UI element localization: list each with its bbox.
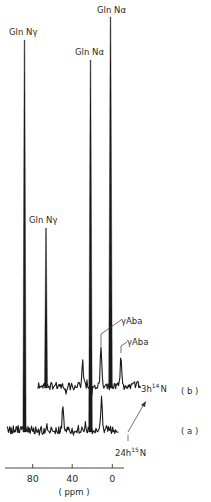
x-tick-label-0: 0 (109, 473, 115, 484)
peak-b-1 (109, 17, 113, 388)
series-b-tag: ( b ) (181, 386, 198, 396)
peak-label-gln-nalpha-b: Gln Nα (97, 5, 126, 15)
peak-label-gln-nalpha-a: Gln Nα (75, 47, 104, 57)
gaba-label-1: γAba (121, 316, 142, 326)
trace-a-label-end: N (140, 448, 146, 458)
x-axis: 80 40 0 ( ppm ) (5, 464, 124, 497)
trace-a-label-sup: 15 (131, 446, 139, 453)
gaba-label-2: γAba (127, 337, 148, 347)
series-a-tag: ( a ) (181, 426, 198, 436)
trace-a-label-main: 24h (115, 448, 131, 458)
x-tick-label-80: 80 (27, 473, 39, 484)
x-axis-unit-label: ( ppm ) (58, 487, 89, 497)
x-tick-label-40: 40 (66, 473, 78, 484)
peak-b-0 (45, 228, 48, 388)
nmr-spectrum-chart: Gln Nγ Gln Nα Gln Nα Gln Nγ γAba γAba 3h… (0, 0, 211, 502)
peak-a-0 (23, 40, 26, 432)
trace-b-label-end: N (160, 384, 166, 394)
arrow-head-icon (141, 401, 146, 407)
spectrum-traces (7, 347, 141, 435)
trace-a-label: 24h15N (115, 446, 146, 458)
arrow-shaft (128, 404, 144, 432)
peak-a-1 (89, 60, 93, 432)
trace-b-label: 3h14N (141, 382, 167, 394)
trace-b-label-main: 3h (141, 384, 152, 394)
peak-label-gln-ngamma-a: Gln Nγ (9, 27, 37, 37)
peak-label-gln-ngamma-b: Gln Nγ (29, 215, 57, 225)
trace-b-label-sup: 14 (152, 382, 160, 389)
